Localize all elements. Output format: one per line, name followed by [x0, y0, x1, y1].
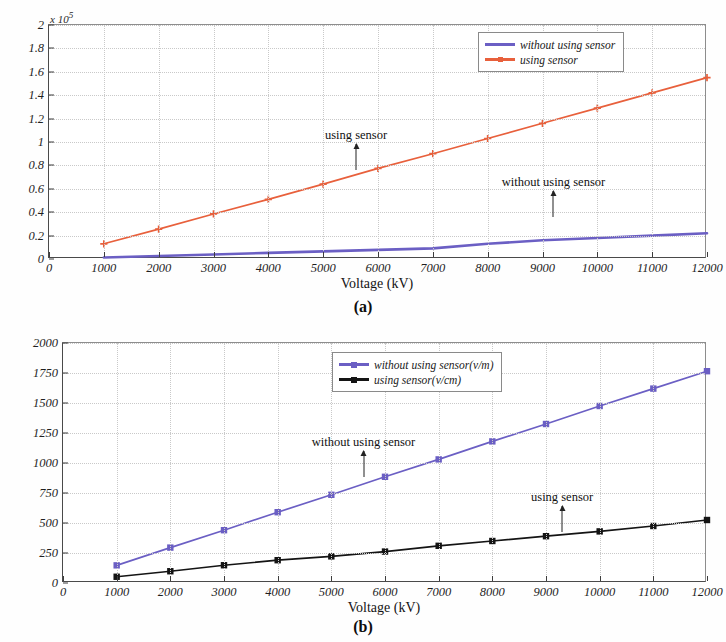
series-line	[104, 78, 707, 244]
x-tick-label: 4000	[265, 585, 290, 600]
legend-entry: using sensor(v/cm)	[339, 372, 493, 387]
x-tick-mark	[597, 252, 598, 257]
y-tick-mark	[49, 95, 54, 96]
x-tick-label: 4000	[256, 261, 281, 276]
x-tick-label: 8000	[480, 585, 505, 600]
x-tick-mark	[439, 576, 440, 581]
y-tick-label: 0	[38, 252, 44, 267]
y-tick-label: 1500	[33, 396, 58, 411]
x-tick-mark	[433, 252, 434, 257]
gridline-vertical	[278, 343, 279, 581]
series-line	[117, 371, 707, 565]
legend-entry: without using sensor(v/m)	[339, 357, 493, 372]
gridline-horizontal	[49, 165, 705, 166]
gridline-horizontal	[63, 343, 705, 344]
legend-label: without using sensor(v/m)	[374, 359, 493, 371]
x-tick-label: 0	[46, 261, 52, 276]
x-tick-label: 2000	[146, 261, 171, 276]
x-tick-label: 12000	[691, 585, 722, 600]
x-tick-mark	[652, 252, 653, 257]
gridline-vertical	[600, 343, 601, 581]
y-multiplier-exponent: 5	[69, 10, 74, 20]
legend-label: without using sensor	[520, 39, 615, 51]
x-tick-label: 8000	[475, 261, 500, 276]
gridline-horizontal	[63, 553, 705, 554]
gridline-horizontal	[63, 433, 705, 434]
x-tick-mark	[63, 576, 64, 581]
gridline-vertical	[433, 25, 434, 257]
figure-page: Electric field (v/m) x 105 00.20.40.60.8…	[0, 0, 726, 642]
plot-annotation-label: without using sensor	[312, 435, 415, 450]
plot-annotation-arrow	[363, 451, 364, 477]
plot-annotation-label: using sensor	[325, 128, 387, 143]
y-tick-mark	[49, 235, 54, 236]
x-tick-label: 3000	[201, 261, 226, 276]
gridline-horizontal	[63, 493, 705, 494]
chart-a-figure: Electric field (v/m) x 105 00.20.40.60.8…	[0, 0, 726, 336]
x-tick-mark	[170, 576, 171, 581]
x-tick-mark	[492, 576, 493, 581]
x-tick-mark	[268, 252, 269, 257]
x-tick-mark	[214, 252, 215, 257]
gridline-horizontal	[49, 119, 705, 120]
x-tick-mark	[488, 252, 489, 257]
y-tick-mark	[63, 373, 68, 374]
data-point-marker	[703, 74, 710, 81]
y-tick-label: 1.2	[28, 111, 44, 126]
x-tick-label: 2000	[158, 585, 183, 600]
y-tick-label: 1250	[33, 426, 58, 441]
series-line	[117, 520, 707, 577]
legend-swatch	[485, 55, 515, 65]
x-tick-label: 6000	[373, 585, 398, 600]
x-tick-label: 9000	[530, 261, 555, 276]
x-tick-label: 10000	[582, 261, 613, 276]
gridline-horizontal	[63, 463, 705, 464]
gridline-vertical	[117, 343, 118, 581]
x-tick-mark	[331, 576, 332, 581]
chart-a-legend: without using sensorusing sensor	[478, 32, 624, 72]
x-tick-mark	[378, 252, 379, 257]
x-tick-label: 5000	[319, 585, 344, 600]
y-tick-mark	[49, 25, 54, 26]
y-tick-mark	[63, 403, 68, 404]
y-tick-label: 1.4	[28, 88, 44, 103]
plot-annotation-label: using sensor	[531, 490, 593, 505]
x-tick-mark	[104, 252, 105, 257]
series-line	[104, 233, 707, 257]
plot-annotation-arrow	[562, 506, 563, 532]
x-tick-mark	[224, 576, 225, 581]
gridline-vertical	[653, 343, 654, 581]
y-tick-mark	[49, 48, 54, 49]
y-tick-mark	[63, 463, 68, 464]
gridline-vertical	[214, 25, 215, 257]
y-tick-mark	[49, 188, 54, 189]
y-tick-mark	[49, 259, 54, 260]
y-tick-label: 1.6	[28, 64, 44, 79]
y-tick-label: 0.2	[28, 228, 44, 243]
x-tick-label: 7000	[420, 261, 445, 276]
x-tick-label: 11000	[637, 261, 667, 276]
y-tick-label: 0.4	[28, 205, 44, 220]
y-tick-mark	[63, 433, 68, 434]
y-tick-label: 1.8	[28, 41, 44, 56]
plot-annotation-label: without using sensor	[502, 175, 605, 190]
x-tick-label: 12000	[691, 261, 722, 276]
x-tick-label: 0	[60, 585, 66, 600]
gridline-vertical	[159, 25, 160, 257]
legend-entry: without using sensor	[485, 37, 615, 52]
x-tick-mark	[546, 576, 547, 581]
chart-a-x-axis-label: Voltage (kV)	[48, 276, 706, 292]
plot-annotation-arrow	[553, 191, 554, 217]
y-multiplier-base: x 10	[50, 13, 69, 25]
gridline-horizontal	[49, 95, 705, 96]
gridline-vertical	[652, 25, 653, 257]
y-tick-label: 250	[39, 546, 58, 561]
chart-b-legend: without using sensor(v/m)using sensor(v/…	[332, 352, 502, 392]
gridline-vertical	[104, 25, 105, 257]
chart-b-caption: (b)	[0, 618, 726, 636]
gridline-horizontal	[49, 212, 705, 213]
x-tick-label: 7000	[426, 585, 451, 600]
y-tick-label: 500	[39, 516, 58, 531]
x-tick-label: 6000	[366, 261, 391, 276]
chart-b-figure: Electric Field (v/m) 0250500750100012501…	[0, 318, 726, 642]
